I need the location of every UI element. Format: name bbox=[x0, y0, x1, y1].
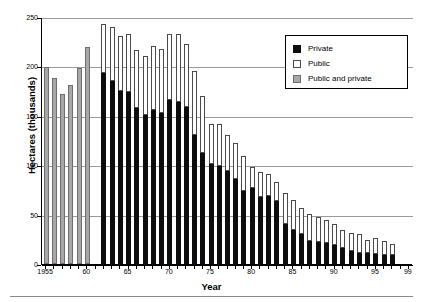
bar-segment-private bbox=[209, 164, 214, 264]
bar-segment-private bbox=[299, 234, 304, 264]
y-tick-mark-100 bbox=[37, 166, 41, 167]
legend-label-private: Private bbox=[308, 45, 333, 53]
x-tick-label-1960: 60 bbox=[74, 268, 98, 275]
x-tick-label-1965: 65 bbox=[116, 268, 140, 275]
bar-segment-public bbox=[390, 244, 395, 255]
y-axis-title: Hectares (thousands) bbox=[26, 51, 37, 201]
y-tick-label-0: 0 bbox=[10, 261, 38, 268]
bar-segment-public bbox=[184, 44, 189, 107]
bar-segment-private bbox=[110, 81, 115, 264]
bar-segment-public bbox=[382, 241, 387, 255]
y-tick-label-200: 200 bbox=[10, 63, 38, 70]
bar-segment-private bbox=[176, 102, 181, 264]
bar-segment-public bbox=[307, 214, 312, 242]
chart-root: Hectares (thousands) 250200150100500 195… bbox=[0, 0, 423, 302]
bar-segment-public bbox=[143, 56, 148, 115]
x-axis-title: Year bbox=[0, 281, 423, 292]
bar-segment-private bbox=[357, 253, 362, 264]
legend-label-public: Public bbox=[308, 60, 330, 68]
bar-segment-public bbox=[349, 233, 354, 251]
chart-legend: Private Public Public and private bbox=[285, 35, 408, 89]
bar-segment-public-and-private bbox=[52, 78, 57, 264]
bar-segment-public bbox=[151, 46, 156, 110]
bar-segment-public bbox=[365, 240, 370, 253]
bar-segment-public bbox=[291, 200, 296, 231]
x-tick-label-1980: 80 bbox=[239, 268, 263, 275]
bar-segment-private bbox=[225, 171, 230, 264]
bar-segment-public bbox=[274, 182, 279, 201]
x-tick-label-1999: 99 bbox=[396, 268, 420, 275]
y-tick-label-150: 150 bbox=[10, 113, 38, 120]
bar-segment-public bbox=[340, 230, 345, 248]
y-tick-mark-150 bbox=[37, 117, 41, 118]
bar-segment-private bbox=[349, 251, 354, 264]
bar-segment-public bbox=[101, 24, 106, 73]
y-tick-mark-250 bbox=[37, 18, 41, 19]
bar-segment-private bbox=[250, 188, 255, 264]
bar-segment-public bbox=[159, 49, 164, 113]
bar-segment-private bbox=[390, 255, 395, 264]
bar-segment-private bbox=[382, 255, 387, 264]
bar-segment-private bbox=[126, 92, 131, 264]
x-axis-tick-labels: 1955606570758085909599 bbox=[0, 268, 423, 280]
bar-segment-public bbox=[241, 156, 246, 191]
bar-segment-public bbox=[167, 34, 172, 100]
y-tick-mark-50 bbox=[37, 216, 41, 217]
bar-segment-public bbox=[110, 27, 115, 81]
bar-segment-private bbox=[200, 153, 205, 264]
bar-segment-private bbox=[143, 115, 148, 264]
bar-segment-private bbox=[118, 91, 123, 264]
bar-segment-private bbox=[365, 253, 370, 264]
legend-item-private: Private bbox=[293, 41, 407, 56]
legend-swatch-public-icon bbox=[293, 60, 301, 68]
bar-segment-public bbox=[266, 174, 271, 196]
bar-segment-private bbox=[217, 166, 222, 264]
bar-segment-public-and-private bbox=[85, 47, 90, 264]
bar-segment-private bbox=[283, 224, 288, 264]
bar-segment-private bbox=[151, 110, 156, 264]
legend-swatch-private-icon bbox=[293, 45, 301, 53]
bar-segment-private bbox=[233, 179, 238, 264]
bar-segment-public bbox=[209, 124, 214, 165]
bar-segment-private bbox=[307, 241, 312, 264]
bar-segment-public bbox=[192, 71, 197, 134]
bar-segment-private bbox=[101, 73, 106, 264]
bar-segment-public bbox=[200, 96, 205, 153]
y-tick-label-100: 100 bbox=[10, 162, 38, 169]
x-tick-label-1975: 75 bbox=[198, 268, 222, 275]
page-bottom-rule bbox=[10, 296, 413, 297]
x-tick-label-1955: 1955 bbox=[33, 268, 57, 275]
bar-segment-private bbox=[324, 243, 329, 264]
bar-segment-private bbox=[134, 108, 139, 264]
bar-segment-public bbox=[283, 193, 288, 225]
bar-segment-public bbox=[134, 50, 139, 108]
legend-label-public-and-private: Public and private bbox=[308, 75, 372, 83]
bar-segment-private bbox=[316, 242, 321, 264]
bar-segment-public bbox=[176, 34, 181, 102]
bar-segment-public-and-private bbox=[44, 67, 49, 264]
bar-segment-public bbox=[299, 208, 304, 235]
legend-item-public-and-private: Public and private bbox=[293, 71, 407, 86]
bar-segment-public bbox=[233, 143, 238, 179]
bar-segment-private bbox=[167, 100, 172, 264]
bar-segment-public bbox=[217, 124, 222, 166]
x-tick-label-1995: 95 bbox=[363, 268, 387, 275]
bar-segment-private bbox=[340, 248, 345, 264]
bar-segment-public bbox=[357, 234, 362, 253]
bar-segment-public bbox=[258, 172, 263, 197]
y-tick-mark-200 bbox=[37, 67, 41, 68]
x-tick-label-1990: 90 bbox=[322, 268, 346, 275]
x-tick-label-1985: 85 bbox=[280, 268, 304, 275]
bar-segment-private bbox=[184, 107, 189, 264]
bar-segment-public-and-private bbox=[60, 94, 65, 264]
bar-segment-private bbox=[258, 197, 263, 264]
bar-segment-public bbox=[332, 224, 337, 246]
bar-segment-private bbox=[274, 201, 279, 264]
bar-segment-public bbox=[324, 220, 329, 244]
bar-segment-public bbox=[316, 217, 321, 243]
bar-segment-private bbox=[159, 113, 164, 264]
y-tick-label-50: 50 bbox=[10, 212, 38, 219]
bar-segment-public bbox=[118, 36, 123, 91]
y-tick-label-250: 250 bbox=[10, 14, 38, 21]
legend-item-public: Public bbox=[293, 56, 407, 71]
